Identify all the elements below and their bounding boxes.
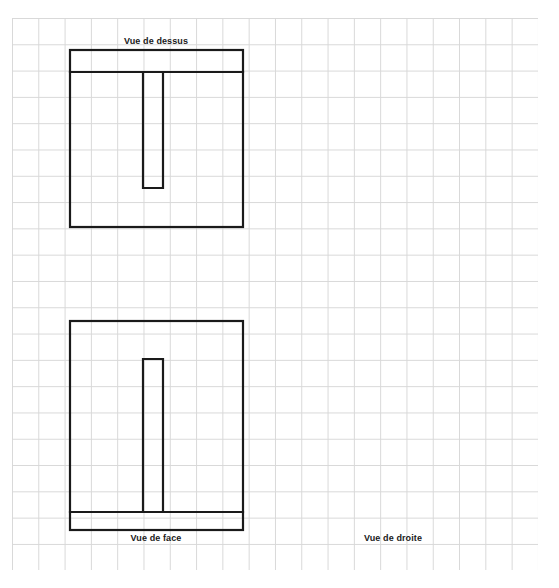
front-view-geometry xyxy=(70,321,243,530)
front-view-label: Vue de face xyxy=(131,533,182,543)
front-view-rib xyxy=(143,359,163,512)
drawing-sheet: Vue de dessus Vue de face Vue de droite xyxy=(0,0,559,588)
top-view-geometry xyxy=(70,50,243,227)
right-view-label: Vue de droite xyxy=(364,533,422,543)
technical-drawing xyxy=(0,0,559,588)
front-view-outline xyxy=(70,321,243,530)
top-view-slot xyxy=(143,72,163,188)
top-view-label: Vue de dessus xyxy=(124,36,188,46)
top-view-outline xyxy=(70,50,243,227)
